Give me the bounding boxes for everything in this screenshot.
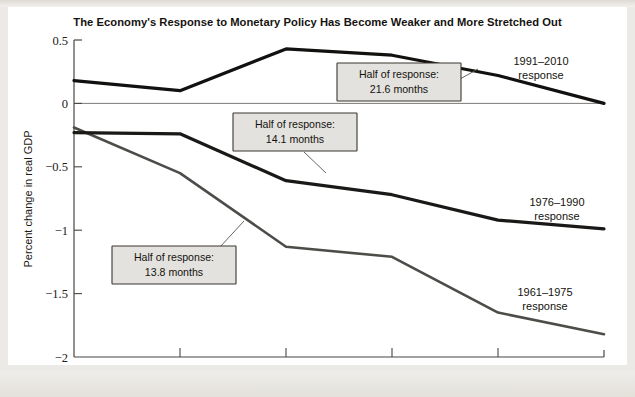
- callout-1961-1975[interactable]: Half of response: 13.8 months: [112, 221, 244, 284]
- figure-card: The Economy's Response to Monetary Polic…: [8, 7, 627, 365]
- callout-leader-3: [220, 221, 244, 247]
- y-tick-label-neg1: −1: [55, 224, 68, 238]
- callout-1-line1: Half of response:: [359, 68, 439, 80]
- y-axis-title: Percent change in real GDP: [22, 131, 34, 268]
- callout-2-line1: Half of response:: [255, 118, 335, 130]
- y-tick-label-neg2: −2: [55, 351, 68, 365]
- callout-3-line2: 13.8 months: [145, 266, 203, 278]
- series-label-1991-2010-years: 1991–2010: [513, 55, 568, 67]
- y-tick-label-0: 0: [62, 97, 68, 111]
- series-label-1991-2010: 1991–2010 response: [513, 55, 568, 81]
- y-tick-label-neg05: −0.5: [45, 160, 68, 174]
- callout-2-line2: 14.1 months: [266, 133, 324, 145]
- y-tick-labels: 0.5 0 −0.5 −1 −1.5 −2: [45, 34, 68, 365]
- series-label-1961-1975: 1961–1975 response: [517, 286, 572, 312]
- series-label-1976-1990-years: 1976–1990: [529, 196, 584, 208]
- series-label-1961-1975-word: response: [522, 300, 567, 312]
- callout-leader-2: [304, 152, 326, 173]
- callout-1-line2: 21.6 months: [370, 83, 428, 95]
- series-label-1976-1990-word: response: [534, 210, 579, 222]
- y-tick-label-neg15: −1.5: [45, 287, 68, 301]
- series-label-1976-1990: 1976–1990 response: [529, 196, 584, 222]
- y-tick-label-05: 0.5: [52, 34, 68, 48]
- callout-1991-2010[interactable]: Half of response: 21.6 months: [337, 63, 478, 101]
- series-label-1991-2010-word: response: [518, 69, 563, 81]
- series-label-1961-1975-years: 1961–1975: [517, 286, 572, 298]
- callout-3-line1: Half of response:: [134, 251, 214, 263]
- line-chart-plot: 0.5 0 −0.5 −1 −1.5 −2 9 12 15 18 21 24 M…: [8, 7, 627, 365]
